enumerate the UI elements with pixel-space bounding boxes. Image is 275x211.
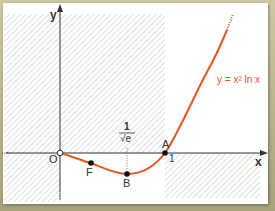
origin-label: O [49, 153, 58, 165]
function-curve-dotted-end [227, 14, 233, 30]
hatch-region-upper-left [4, 14, 165, 153]
origin-point [57, 150, 63, 156]
point-a [162, 150, 168, 156]
point-f-label: F [86, 166, 93, 178]
point-b-label: B [123, 177, 130, 189]
graph [0, 0, 275, 211]
point-b [124, 171, 130, 177]
tick-one-label: 1 [169, 153, 175, 164]
b-x-numerator: 1 [124, 121, 130, 132]
y-axis-arrow-icon [57, 4, 63, 12]
y-axis-label: y [50, 8, 57, 22]
b-x-denominator: √e [120, 133, 131, 144]
x-axis-label: x [255, 155, 262, 169]
function-label: y = x² ln x [217, 74, 260, 85]
hatch-region-lower-right [165, 153, 260, 198]
point-f [88, 160, 94, 166]
point-a-label: A [162, 138, 169, 150]
